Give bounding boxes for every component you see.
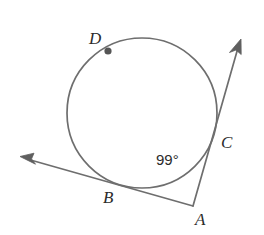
- label-point-b: B: [103, 188, 114, 207]
- arrow-head-up-right: [230, 39, 242, 55]
- label-point-c: C: [221, 133, 233, 152]
- geometry-figure: D C B A 99°: [0, 0, 264, 235]
- label-point-a: A: [194, 210, 206, 229]
- circle-shape: [67, 38, 217, 188]
- tangent-line-ac: [193, 46, 239, 206]
- angle-measure-label: 99°: [156, 151, 179, 168]
- geometry-canvas: D C B A 99°: [0, 0, 264, 235]
- point-marker-d: [104, 47, 111, 54]
- arrow-head-left: [20, 153, 36, 164]
- label-point-d: D: [88, 29, 102, 48]
